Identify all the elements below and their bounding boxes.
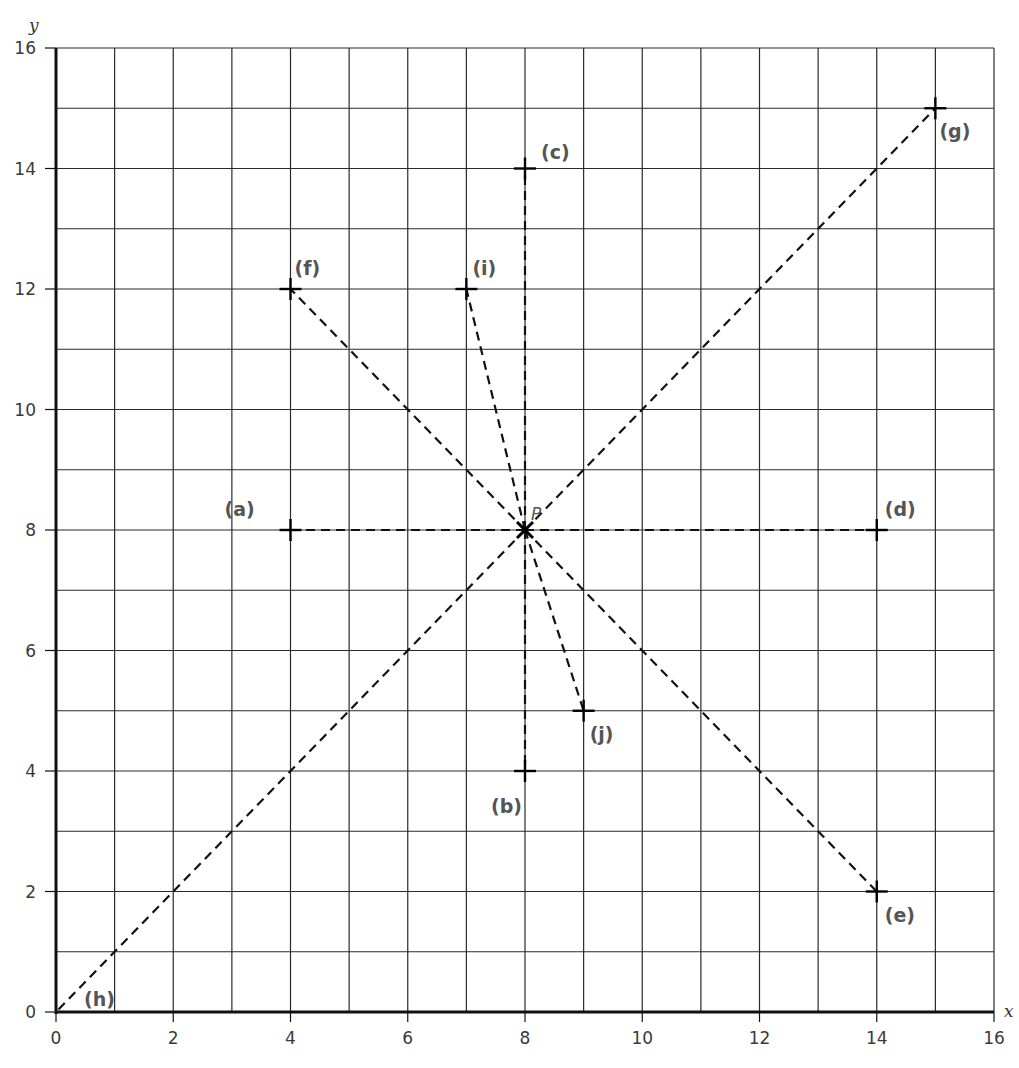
x-tick-label: 0 — [51, 1028, 62, 1048]
x-tick-label: 4 — [285, 1028, 296, 1048]
x-tick-label: 16 — [983, 1028, 1005, 1048]
point-label-i: (i) — [472, 257, 496, 279]
tick-labels: 02468101214160246810121416 — [14, 38, 1004, 1048]
point-label-d: (d) — [885, 498, 916, 520]
y-tick-label: 10 — [14, 400, 36, 420]
point-label-h: (h) — [84, 988, 115, 1010]
y-tick-label: 14 — [14, 159, 36, 179]
x-tick-label: 10 — [631, 1028, 653, 1048]
x-axis-label: x — [1004, 1001, 1014, 1021]
point-label-a: (a) — [225, 498, 255, 520]
axes: xy — [28, 15, 1014, 1021]
y-tick-label: 12 — [14, 279, 36, 299]
point-label-p: P — [531, 504, 542, 524]
point-markers — [280, 97, 947, 902]
x-tick-label: 8 — [520, 1028, 531, 1048]
point-label-b: (b) — [491, 795, 522, 817]
y-axis-label: y — [28, 15, 39, 35]
segment-to-p — [525, 108, 935, 530]
x-tick-label: 6 — [402, 1028, 413, 1048]
y-tick-label: 16 — [14, 38, 36, 58]
point-label-f: (f) — [295, 257, 321, 279]
dashed-segments — [56, 108, 935, 1012]
y-tick-label: 6 — [25, 641, 36, 661]
point-label-c: (c) — [541, 141, 570, 163]
point-labels: (a)(b)(c)(d)(e)(f)(g)(h)(i)(j)P — [84, 120, 970, 1010]
x-tick-label: 14 — [866, 1028, 888, 1048]
point-label-e: (e) — [885, 904, 915, 926]
point-label-g: (g) — [939, 120, 970, 142]
segment-to-p — [525, 530, 584, 711]
coordinate-grid-chart: xy 02468101214160246810121416 (a)(b)(c)(… — [0, 0, 1019, 1068]
y-tick-label: 0 — [25, 1002, 36, 1022]
x-tick-label: 2 — [168, 1028, 179, 1048]
x-tick-label: 12 — [749, 1028, 771, 1048]
y-tick-label: 8 — [25, 520, 36, 540]
point-label-j: (j) — [590, 723, 614, 745]
y-tick-label: 2 — [25, 882, 36, 902]
y-tick-label: 4 — [25, 761, 36, 781]
